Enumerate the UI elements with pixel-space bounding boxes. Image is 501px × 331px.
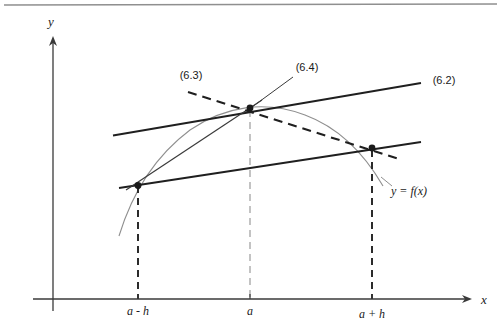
y-axis-label: y (46, 14, 54, 29)
function-label: y = f(x) (390, 184, 427, 198)
x-tick-label-a-minus-h: a - h (127, 304, 149, 318)
function-curve (119, 107, 383, 236)
label-6-2: (6.2) (433, 74, 456, 86)
point-a-plus-h (369, 145, 376, 152)
calculus-secant-diagram: y x (6.3) (6.4) (6.2) y = f(x) a - h a a… (0, 0, 501, 331)
figure-container: y x (6.3) (6.4) (6.2) y = f(x) a - h a a… (0, 0, 501, 331)
x-axis-label: x (480, 292, 487, 307)
page-rule (4, 4, 497, 5)
point-a-minus-h (135, 182, 142, 189)
point-a (247, 105, 254, 112)
x-tick-marks (138, 294, 372, 299)
axes-group (33, 36, 472, 311)
line-6-2 (113, 83, 421, 136)
x-tick-label-a-plus-h: a + h (359, 307, 385, 321)
line-6-3 (188, 92, 399, 159)
x-tick-label-a: a (247, 304, 253, 318)
label-6-3: (6.3) (180, 69, 203, 81)
label-6-4: (6.4) (296, 61, 319, 73)
line-6-4-leader (252, 77, 293, 107)
